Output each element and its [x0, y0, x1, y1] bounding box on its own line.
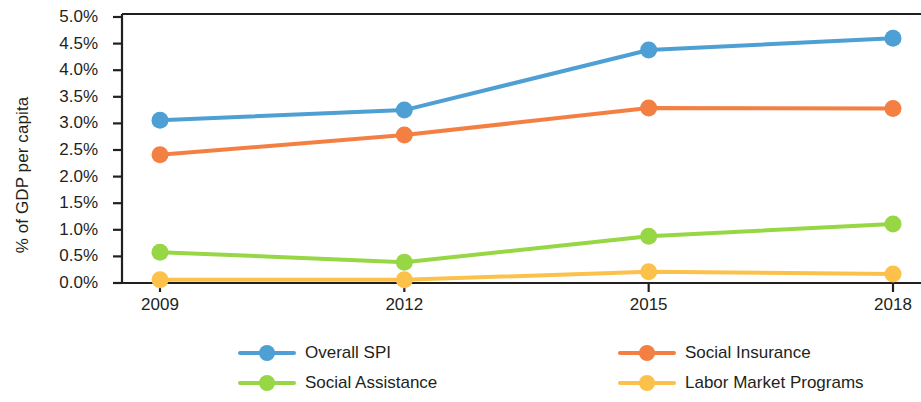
- legend-marker-icon: [238, 344, 296, 362]
- legend-item[interactable]: Social Assistance: [238, 370, 437, 396]
- x-axis-tick-label: 2015: [630, 295, 668, 315]
- x-axis-tick-label: 2012: [385, 295, 423, 315]
- legend-marker-icon: [618, 344, 676, 362]
- legend-label: Labor Market Programs: [685, 373, 864, 393]
- x-axis-tick-label: 2018: [874, 295, 912, 315]
- x-axis-tick-label: 2009: [141, 295, 179, 315]
- legend-marker-icon: [618, 374, 676, 392]
- legend-label: Overall SPI: [305, 343, 391, 363]
- legend-marker-icon: [238, 374, 296, 392]
- legend-item[interactable]: Social Insurance: [618, 340, 811, 366]
- legend-item[interactable]: Overall SPI: [238, 340, 391, 366]
- chart-legend: Overall SPISocial InsuranceSocial Assist…: [0, 336, 921, 400]
- line-chart: % of GDP per capita 0.0%0.5%1.0%1.5%2.0%…: [0, 0, 921, 402]
- legend-label: Social Assistance: [305, 373, 437, 393]
- legend-label: Social Insurance: [685, 343, 811, 363]
- legend-item[interactable]: Labor Market Programs: [618, 370, 864, 396]
